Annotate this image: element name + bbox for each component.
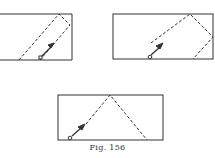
- start-circle: [39, 56, 42, 59]
- arrow-head-icon: [156, 43, 163, 49]
- rectangle: [113, 14, 213, 59]
- dashed-path: [86, 95, 147, 140]
- figure-caption: Fig. 156: [0, 143, 215, 152]
- arrow-head-icon: [48, 43, 54, 48]
- figure-diagram: [0, 0, 215, 158]
- rectangle: [58, 95, 163, 140]
- arrow-shaft: [72, 128, 81, 136]
- panel-top-left: [0, 14, 72, 60]
- panel-top-right: [113, 14, 213, 59]
- start-circle: [148, 55, 152, 59]
- rectangle: [0, 14, 72, 60]
- panel-bottom-center: [58, 95, 163, 140]
- start-circle: [68, 136, 72, 140]
- dashed-path: [151, 14, 213, 59]
